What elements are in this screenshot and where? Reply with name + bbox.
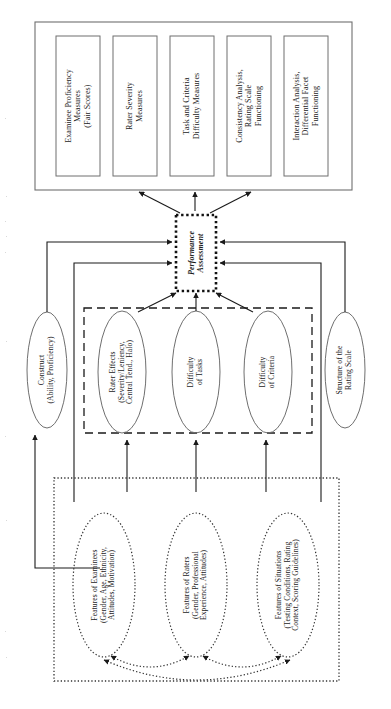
- arrow-raters-situations: [203, 656, 281, 667]
- outcome-label-consistency-analysis: Consistency Analysis, Rating Scale Funct…: [239, 36, 259, 176]
- rater-effects-text: Rater Effects (Severity/Leniency, Centra…: [109, 340, 136, 404]
- scan-speckle: [5, 631, 6, 632]
- scan-speckle: [6, 520, 7, 521]
- scan-speckle: [5, 221, 6, 222]
- arrow-examinees-situations: [104, 660, 290, 680]
- outcome-text-interaction-analysis: Interaction Analysis, Differential Facet…: [292, 71, 321, 140]
- features-of-raters-text: Features of Raters (Gender, Professional…: [183, 550, 210, 620]
- label-features-of-situations: Features of Situations (Testing Conditio…: [278, 518, 298, 652]
- scan-speckle: [6, 196, 7, 197]
- scan-speckle: [5, 252, 6, 253]
- scan-speckle: [5, 118, 6, 119]
- label-features-of-raters: Features of Raters (Gender, Professional…: [186, 518, 206, 652]
- performance-assessment-label: Performance Assessment: [186, 220, 206, 286]
- arrow-center-to-outcomes-left: [139, 192, 180, 213]
- arrow-criteria-to-center: [216, 293, 253, 312]
- difficulty-of-criteria-text: Difficulty of Criteria: [259, 356, 277, 389]
- label-construct: Construct (Ability, Proficiency): [37, 317, 57, 423]
- label-difficulty-of-tasks: Difficulty of Tasks: [186, 317, 206, 427]
- features-of-situations-text: Features of Situations (Testing Conditio…: [275, 539, 302, 631]
- scan-speckle: [6, 236, 7, 237]
- scan-speckle: [6, 341, 7, 342]
- label-rating-scale-structure: Structure of the Rating Scale: [335, 317, 355, 423]
- difficulty-of-tasks-text: Difficulty of Tasks: [187, 357, 205, 388]
- outcome-text-task-criteria-difficulty: Task and Criteria Difficulty Measures: [182, 73, 201, 140]
- outcome-label-task-criteria-difficulty: Task and Criteria Difficulty Measures: [182, 36, 202, 176]
- performance-assessment-diagram: Examinee Proficiency Measures (Fair Scor…: [0, 0, 391, 709]
- label-rater-effects: Rater Effects (Severity/Leniency, Centra…: [112, 317, 132, 427]
- scan-speckle: [5, 436, 6, 437]
- arrow-examinees-raters: [111, 656, 189, 667]
- outcome-text-examinee-proficiency: Examinee Proficiency Measures (Fair Scor…: [64, 69, 93, 143]
- outcome-text-rater-severity: Rater Severity Measures: [125, 82, 144, 130]
- outcome-label-examinee-proficiency: Examinee Proficiency Measures (Fair Scor…: [68, 36, 88, 176]
- label-difficulty-of-criteria: Difficulty of Criteria: [258, 317, 278, 427]
- label-features-of-examinees: Features of Examinees (Gender, Age, Ethn…: [94, 518, 114, 652]
- performance-assessment-text: Performance Assessment: [187, 231, 206, 275]
- arrow-rating-scale-to-center: [220, 242, 345, 312]
- arrow-construct-to-center: [47, 242, 172, 312]
- outcome-label-rater-severity: Rater Severity Measures: [125, 36, 145, 176]
- outcome-label-interaction-analysis: Interaction Analysis, Differential Facet…: [296, 36, 316, 176]
- arrow-center-to-outcomes-right: [210, 192, 251, 213]
- arrow-rater-effects-to-center: [138, 293, 176, 312]
- scan-speckle: [6, 657, 7, 658]
- construct-text: Construct (Ability, Proficiency): [38, 336, 56, 403]
- rating-scale-structure-text: Structure of the Rating Scale: [336, 346, 354, 395]
- features-of-examinees-text: Features of Examinees (Gender, Age, Ethn…: [91, 547, 118, 623]
- outcome-text-consistency-analysis: Consistency Analysis, Rating Scale Funct…: [235, 69, 264, 143]
